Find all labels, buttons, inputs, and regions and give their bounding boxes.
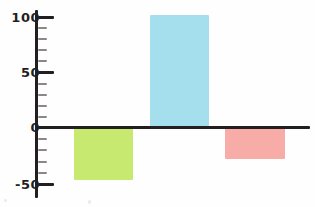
bar-blue-fill (150, 15, 209, 127)
y-tick-minor-neg40 (38, 172, 47, 174)
y-tick-minor-20 (38, 105, 47, 107)
bar-green-negative-fill (74, 127, 133, 181)
y-tick-minor-30 (38, 94, 47, 96)
y-tick-minor-40 (38, 83, 47, 85)
y-tick-minor-80 (38, 38, 47, 40)
paper-speckle (4, 199, 7, 202)
y-tick-minor-neg30 (38, 161, 47, 163)
paper-speckle (88, 200, 91, 204)
plot-area: 100 50 0 -50 (0, 0, 315, 207)
bar-blue[interactable] (150, 15, 209, 127)
bar-chart: 100 50 0 -50 (0, 0, 315, 207)
y-label-minus50: -50 (15, 177, 40, 192)
bar-salmon[interactable] (225, 127, 285, 159)
bar-salmon-fill (225, 127, 285, 159)
y-tick-minor-neg20 (38, 149, 47, 151)
y-label-50: 50 (21, 65, 40, 80)
y-tick-100 (38, 16, 54, 19)
y-tick-50 (38, 71, 54, 74)
y-tick-minor-90 (38, 27, 47, 29)
bar-green-negative[interactable] (74, 127, 133, 181)
y-tick-minor-10 (38, 116, 47, 118)
zero-baseline (35, 126, 310, 129)
y-tick-minor-60 (38, 60, 47, 62)
y-label-100: 100 (11, 10, 40, 25)
y-tick-minor-neg10 (38, 138, 47, 140)
y-tick-minus50 (38, 183, 54, 186)
y-tick-minor-70 (38, 49, 47, 51)
